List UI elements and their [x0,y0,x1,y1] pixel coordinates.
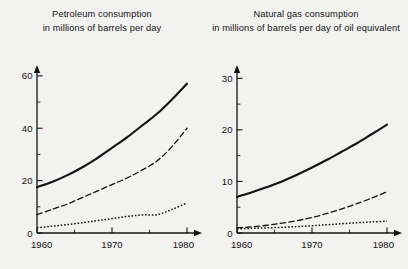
series-solid-curve [237,125,387,197]
series-dotted-curve [37,203,187,228]
y-tick-label: 20 [222,124,233,135]
y-axis-arrowhead [234,65,240,73]
y-tick-label: 0 [27,228,32,239]
series-dashed-curve [237,192,387,228]
y-tick-label: 20 [22,175,33,186]
y-tick-label: 10 [222,176,233,187]
y-tick-label: 40 [22,123,33,134]
x-axis-arrowhead [394,230,402,236]
petroleum-consumption-panel: Petroleum consumption in millions of bar… [0,0,204,269]
y-tick-label: 30 [222,73,233,84]
petroleum-plot-area: 0204060196019701980 [0,0,204,269]
x-tick-label: 1970 [101,239,122,250]
x-tick-label: 1980 [173,239,194,250]
y-tick-label: 0 [227,228,232,239]
natural-gas-plot-area: 0102030196019701980 [204,0,408,269]
x-tick-label: 1960 [31,239,52,250]
series-dashed-curve [37,128,187,214]
two-panel-line-chart-figure: Petroleum consumption in millions of bar… [0,0,408,269]
x-tick-label: 1980 [373,239,394,250]
x-tick-label: 1970 [301,239,322,250]
y-tick-label: 60 [22,70,33,81]
x-tick-label: 1960 [231,239,252,250]
natural-gas-consumption-panel: Natural gas consumption in millions of b… [204,0,408,269]
series-solid-curve [37,84,187,187]
y-axis-arrowhead [34,65,40,73]
x-axis-arrowhead [194,230,202,236]
